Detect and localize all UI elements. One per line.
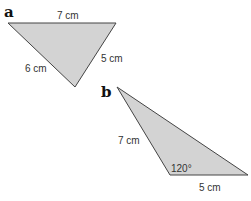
triangle-a-shape bbox=[8, 23, 116, 87]
triangle-diagram: a 7 cm 5 cm 6 cm b 7 cm 5 cm 120° bbox=[0, 0, 251, 201]
side-b-bottom-length: 5 cm bbox=[199, 182, 221, 193]
triangle-b: b 7 cm 5 cm 120° bbox=[101, 83, 248, 193]
triangle-b-label: b bbox=[101, 83, 112, 101]
triangle-a: a 7 cm 5 cm 6 cm bbox=[4, 3, 123, 87]
triangle-a-label: a bbox=[4, 3, 14, 21]
triangle-b-shape bbox=[117, 87, 248, 175]
side-b-left-length: 7 cm bbox=[118, 135, 140, 146]
side-a-top-length: 7 cm bbox=[57, 10, 79, 21]
angle-b-label: 120° bbox=[171, 163, 192, 174]
side-a-left-length: 6 cm bbox=[25, 63, 47, 74]
side-a-right-length: 5 cm bbox=[101, 53, 123, 64]
